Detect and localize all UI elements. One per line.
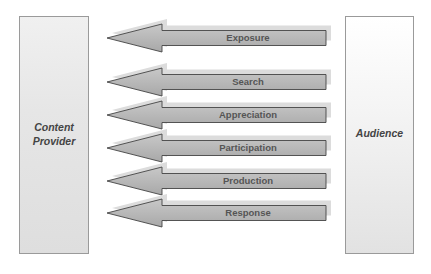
arrow-label-participation: Participation [170, 142, 326, 154]
arrow-label-exposure: Exposure [170, 32, 326, 44]
arrow-label-response: Response [170, 207, 326, 219]
arrow-label-production: Production [170, 175, 326, 187]
arrow-label-search: Search [170, 76, 326, 88]
arrow-label-appreciation: Appreciation [170, 109, 326, 121]
